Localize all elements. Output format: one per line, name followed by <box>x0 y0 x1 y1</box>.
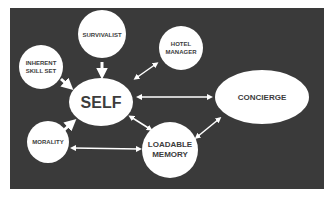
node-inherent-skill-set: INHERENT SKILL SET <box>19 45 63 89</box>
loadable-memory-label-line1: LOADABLE <box>148 140 193 149</box>
arrow-morality-memory <box>73 148 139 149</box>
arrow-morality-to-self <box>64 122 73 130</box>
inherent-label-line2: SKILL SET <box>26 68 57 74</box>
loadable-memory-label-line2: MEMORY <box>152 150 188 159</box>
self-label: SELF <box>81 94 122 111</box>
node-self: SELF <box>69 78 133 126</box>
node-loadable-memory: LOADABLE MEMORY <box>142 122 198 178</box>
arrow-memory-concierge <box>197 119 219 137</box>
morality-label: MORALITY <box>32 139 63 145</box>
arrow-hotel-self <box>136 64 156 78</box>
arrow-self-memory <box>131 117 150 129</box>
survivalist-label: SURVIVALIST <box>82 32 121 38</box>
inherent-label-line1: INHERENT <box>26 60 57 66</box>
node-morality: MORALITY <box>27 121 69 163</box>
node-survivalist: SURVIVALIST <box>78 10 126 58</box>
concierge-label: CONCIERGE <box>238 93 287 102</box>
arrow-inherent-to-self <box>61 79 70 87</box>
hotel-manager-label-line2: MANAGER <box>166 49 198 55</box>
node-concierge: CONCIERGE <box>215 70 309 124</box>
hotel-manager-label-line1: HOTEL <box>171 41 192 47</box>
node-hotel-manager: HOTEL MANAGER <box>159 26 203 70</box>
diagram-canvas: SURVIVALIST HOTEL MANAGER INHERENT SKILL… <box>0 0 335 198</box>
